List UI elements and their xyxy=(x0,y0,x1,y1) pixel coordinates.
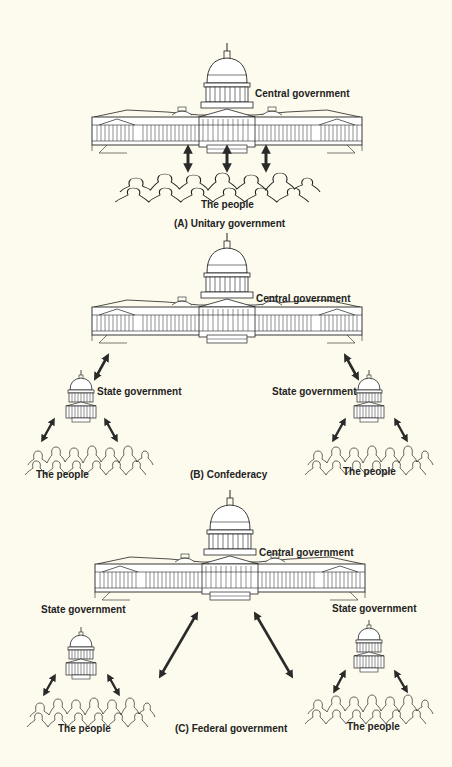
state-government-capitol-right xyxy=(354,370,384,422)
central-government-capitol xyxy=(92,233,362,343)
state-government-label-right: State government xyxy=(332,604,416,614)
panel-a-unitary xyxy=(92,43,362,202)
arrows-central-people xyxy=(188,149,266,168)
people-label-left: The people xyxy=(36,470,89,480)
people-crowd xyxy=(115,173,320,202)
government-systems-diagram: Central government The people (A) Unitar… xyxy=(0,0,452,767)
state-government-capitol-right xyxy=(354,620,384,672)
central-government-label: Central government xyxy=(259,548,353,558)
people-label-right: The people xyxy=(343,467,396,477)
arrows-central-state xyxy=(96,357,357,377)
arrows-state-people xyxy=(43,421,406,439)
state-government-capitol-left xyxy=(66,370,96,422)
state-government-capitol-left xyxy=(66,627,96,679)
central-government-label: Central government xyxy=(256,294,350,304)
panel-b-confederacy xyxy=(25,233,433,475)
panel-caption: (A) Unitary government xyxy=(174,219,285,229)
people-label: The people xyxy=(201,200,254,210)
central-government-label: Central government xyxy=(255,89,349,99)
panel-caption: (B) Confederacy xyxy=(190,470,267,480)
people-label-left: The people xyxy=(58,724,111,734)
people-label-right: The people xyxy=(347,722,400,732)
diagram-artwork xyxy=(0,0,452,767)
state-government-label-left: State government xyxy=(97,387,181,397)
arrows-central-people xyxy=(161,615,291,675)
state-government-label-right: State government xyxy=(272,387,356,397)
arrows-state-people xyxy=(45,673,406,693)
state-government-label-left: State government xyxy=(41,605,125,615)
central-government-capitol xyxy=(95,490,365,600)
people-crowd-right xyxy=(305,695,433,724)
panel-caption: (C) Federal government xyxy=(175,724,287,734)
